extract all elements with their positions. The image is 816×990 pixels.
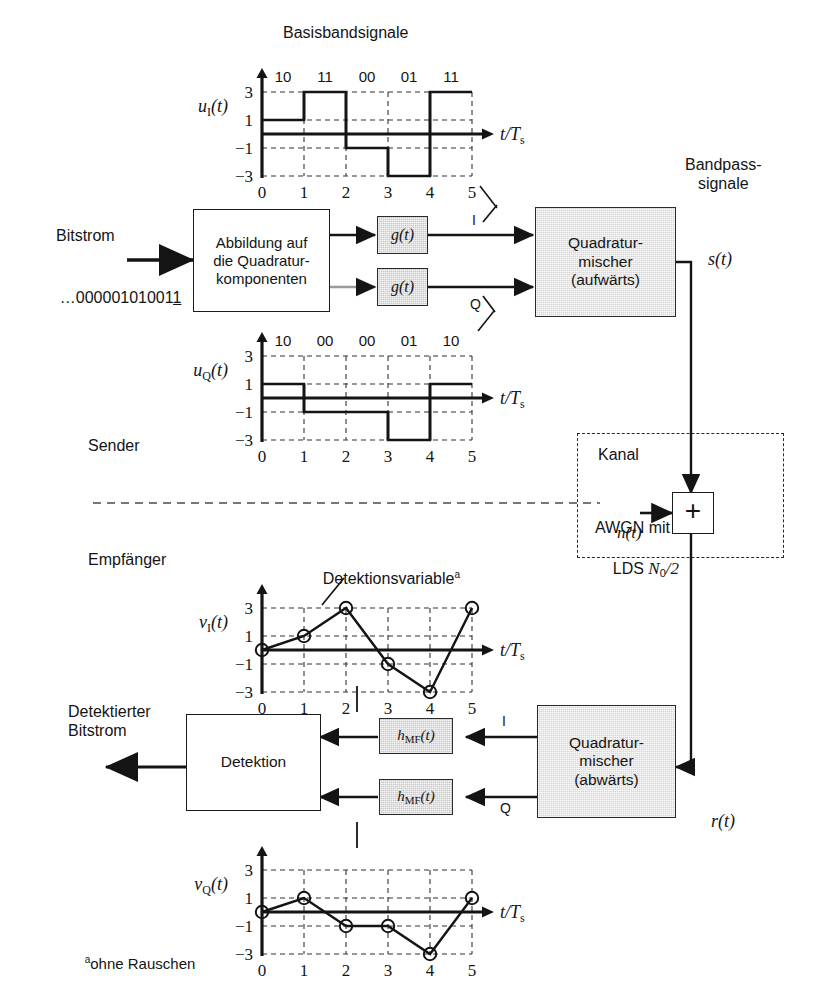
svg-text:3: 3 bbox=[384, 961, 393, 980]
svg-text:00: 00 bbox=[317, 332, 334, 349]
svg-text:1: 1 bbox=[300, 447, 309, 466]
label-bitstrom-value: …000001010011 bbox=[42, 270, 181, 327]
block-matched-filter-i-label: hMF(t) bbox=[397, 726, 435, 746]
label-signal-n-text: n(t) bbox=[617, 523, 642, 542]
svg-text:−1: −1 bbox=[235, 403, 253, 422]
chart-u-i: 31−1−30123451011000111uI(t)t/Ts bbox=[195, 62, 515, 194]
svg-text:2: 2 bbox=[342, 183, 351, 202]
svg-text:0: 0 bbox=[258, 961, 267, 980]
label-branch-i-rx: I bbox=[502, 713, 506, 730]
label-signal-r: r(t) bbox=[693, 790, 735, 853]
chart-u_Q: 31−1−30123451000000110uQ(t)t/Ts bbox=[195, 326, 515, 458]
svg-text:1: 1 bbox=[300, 961, 309, 980]
block-matched-filter-q[interactable]: hMF(t) bbox=[379, 779, 453, 815]
svg-text:4: 4 bbox=[426, 447, 435, 466]
chart-v_I: 31−1−3012345vI(t)t/Ts bbox=[195, 578, 515, 710]
block-mixer-up-label: Quadratur- mischer (aufwärts) bbox=[568, 234, 643, 290]
svg-text:0: 0 bbox=[258, 699, 267, 718]
svg-text:3: 3 bbox=[384, 699, 393, 718]
svg-text:t/Ts: t/Ts bbox=[500, 640, 525, 663]
chart-v-i: 31−1−3012345vI(t)t/Ts bbox=[195, 578, 515, 710]
footnote: aohne Rauschen bbox=[68, 936, 195, 990]
label-branch-q-tx: Q bbox=[470, 296, 481, 313]
svg-text:−3: −3 bbox=[235, 683, 253, 702]
diagram-canvas: Basisbandsignale Bandpass- signale Sende… bbox=[0, 0, 816, 990]
label-signal-s: s(t) bbox=[690, 228, 732, 291]
block-mapper-label: Abbildung auf die Quadratur- komponenten bbox=[213, 234, 310, 288]
svg-text:uI(t): uI(t) bbox=[198, 96, 228, 119]
title-bandpasssignale: Bandpass- signale bbox=[685, 156, 762, 194]
chart-u-q: 31−1−30123451000000110uQ(t)t/Ts bbox=[195, 326, 515, 458]
section-label-sender: Sender bbox=[88, 437, 140, 456]
label-bitstrom: Bitstrom bbox=[56, 227, 115, 246]
svg-text:3: 3 bbox=[384, 183, 393, 202]
footnote-text: ohne Rauschen bbox=[90, 955, 195, 972]
block-mixer-down[interactable]: Quadratur- mischer (abwärts) bbox=[537, 705, 676, 818]
block-matched-filter-i[interactable]: hMF(t) bbox=[379, 718, 453, 754]
block-summing-junction[interactable]: + bbox=[672, 492, 714, 534]
block-pulse-shaper-i[interactable]: g(t) bbox=[377, 216, 428, 254]
svg-text:11: 11 bbox=[443, 68, 459, 85]
svg-text:01: 01 bbox=[401, 68, 418, 85]
svg-text:1: 1 bbox=[245, 889, 254, 908]
block-mixer-up[interactable]: Quadratur- mischer (aufwärts) bbox=[535, 207, 676, 317]
svg-text:vI(t): vI(t) bbox=[199, 612, 228, 635]
svg-text:t/Ts: t/Ts bbox=[500, 388, 525, 411]
svg-text:−1: −1 bbox=[235, 139, 253, 158]
svg-text:−3: −3 bbox=[235, 431, 253, 450]
svg-text:10: 10 bbox=[443, 332, 460, 349]
block-detection-label: Detektion bbox=[221, 753, 286, 772]
svg-text:11: 11 bbox=[317, 68, 333, 85]
svg-text:1: 1 bbox=[245, 375, 254, 394]
svg-text:1: 1 bbox=[245, 111, 254, 130]
bitstrom-digits: …00000101001 bbox=[60, 289, 173, 306]
svg-text:−1: −1 bbox=[235, 917, 253, 936]
svg-text:2: 2 bbox=[342, 447, 351, 466]
block-mapper[interactable]: Abbildung auf die Quadratur- komponenten bbox=[193, 209, 330, 312]
svg-text:00: 00 bbox=[359, 332, 376, 349]
label-signal-s-text: s(t) bbox=[708, 249, 732, 269]
svg-text:t/Ts: t/Ts bbox=[500, 902, 525, 925]
svg-text:3: 3 bbox=[245, 83, 254, 102]
svg-text:4: 4 bbox=[426, 699, 435, 718]
svg-text:−3: −3 bbox=[235, 945, 253, 964]
svg-text:5: 5 bbox=[468, 447, 477, 466]
svg-text:3: 3 bbox=[245, 861, 254, 880]
svg-text:t/Ts: t/Ts bbox=[500, 124, 525, 147]
svg-text:10: 10 bbox=[275, 332, 292, 349]
label-branch-i-tx: I bbox=[472, 212, 476, 229]
svg-text:1: 1 bbox=[300, 183, 309, 202]
label-signal-n: n(t) bbox=[600, 503, 642, 563]
block-detection[interactable]: Detektion bbox=[186, 714, 321, 811]
label-branch-q-rx: Q bbox=[500, 800, 511, 817]
svg-text:0: 0 bbox=[258, 183, 267, 202]
svg-text:5: 5 bbox=[468, 699, 477, 718]
svg-text:vQ(t): vQ(t) bbox=[194, 874, 228, 897]
svg-text:4: 4 bbox=[426, 961, 435, 980]
svg-text:01: 01 bbox=[401, 332, 418, 349]
svg-text:uQ(t): uQ(t) bbox=[193, 360, 228, 383]
svg-text:0: 0 bbox=[258, 447, 267, 466]
block-pulse-shaper-i-label: g(t) bbox=[391, 225, 414, 244]
svg-text:5: 5 bbox=[468, 961, 477, 980]
block-pulse-shaper-q-label: g(t) bbox=[391, 277, 414, 296]
svg-text:00: 00 bbox=[359, 68, 376, 85]
label-kanal: Kanal bbox=[598, 446, 639, 465]
svg-text:1: 1 bbox=[300, 699, 309, 718]
svg-text:2: 2 bbox=[342, 699, 351, 718]
svg-text:2: 2 bbox=[342, 961, 351, 980]
block-pulse-shaper-q[interactable]: g(t) bbox=[377, 268, 428, 306]
chart-v-q: 31−1−3012345vQ(t)t/Ts bbox=[195, 840, 515, 972]
title-basisbandsignale: Basisbandsignale bbox=[283, 24, 408, 43]
block-mixer-down-label: Quadratur- mischer (abwärts) bbox=[569, 734, 644, 790]
svg-text:3: 3 bbox=[245, 347, 254, 366]
svg-text:4: 4 bbox=[426, 183, 435, 202]
svg-text:3: 3 bbox=[384, 447, 393, 466]
block-matched-filter-q-label: hMF(t) bbox=[397, 787, 435, 807]
bitstrom-last-bit: 1 bbox=[173, 289, 181, 306]
svg-text:3: 3 bbox=[245, 599, 254, 618]
label-signal-r-text: r(t) bbox=[711, 811, 735, 831]
svg-text:10: 10 bbox=[275, 68, 292, 85]
summing-junction-symbol: + bbox=[685, 497, 701, 525]
svg-text:1: 1 bbox=[245, 627, 254, 646]
